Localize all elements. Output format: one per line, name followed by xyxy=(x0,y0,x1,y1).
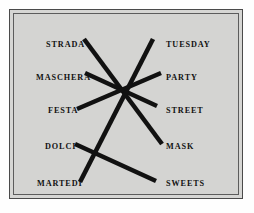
term-right-mask[interactable]: MASK xyxy=(166,143,194,151)
match-line-martedi-tuesday xyxy=(80,39,153,182)
match-line-strada-mask xyxy=(84,39,162,144)
matching-exercise-figure: STRADAMASCHERAFESTADOLCIMARTEDI TUESDAYP… xyxy=(0,0,254,213)
match-line-dolci-sweets xyxy=(75,144,156,181)
term-right-sweets[interactable]: SWEETS xyxy=(166,180,205,188)
term-left-strada[interactable]: STRADA xyxy=(46,41,85,49)
term-left-maschera[interactable]: MASCHERA xyxy=(36,74,91,82)
figure-inner-border: STRADAMASCHERAFESTADOLCIMARTEDI TUESDAYP… xyxy=(13,13,239,195)
term-left-martedi[interactable]: MARTEDI xyxy=(37,180,83,188)
match-line-maschera-street xyxy=(85,73,157,106)
figure-outer-border: STRADAMASCHERAFESTADOLCIMARTEDI TUESDAYP… xyxy=(9,9,243,199)
term-left-festa[interactable]: FESTA xyxy=(48,107,78,115)
term-right-party[interactable]: PARTY xyxy=(166,74,198,82)
term-left-dolci[interactable]: DOLCI xyxy=(45,143,76,151)
term-right-street[interactable]: STREET xyxy=(166,107,204,115)
term-right-tuesday[interactable]: TUESDAY xyxy=(166,41,211,49)
